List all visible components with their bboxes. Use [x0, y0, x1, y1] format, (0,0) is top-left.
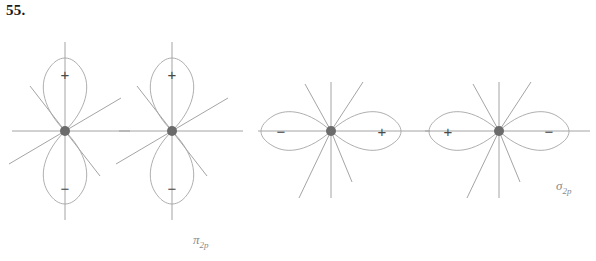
pi-atom-1-nucleus-icon — [60, 126, 70, 136]
sign-sigma-1-left: − — [277, 124, 286, 139]
pi-atom-2 — [116, 42, 243, 220]
axis-diagonal-up-left-icon — [30, 86, 65, 131]
axis-diagonal-down-right-icon — [499, 131, 520, 182]
sign-pi-2-top: + — [168, 67, 177, 82]
orbital-diagram-figure — [0, 0, 596, 261]
sigma-2p-orbital-group — [258, 82, 590, 198]
sigma-atom-2-nucleus-icon — [494, 126, 504, 136]
axis-diagonal-up-right-icon — [331, 82, 363, 131]
sign-sigma-2-right: − — [545, 124, 554, 139]
axis-diagonal-down-right-icon — [331, 131, 352, 182]
sigma-orbital-subscript: 2p — [562, 186, 571, 196]
sign-pi-2-bottom: − — [168, 181, 177, 196]
sigma-atom-1 — [258, 82, 430, 198]
axis-diagonal-down-right-icon — [172, 131, 207, 176]
axis-diagonal-up-right-icon — [65, 98, 121, 131]
axis-diagonal-down-left-icon — [299, 131, 331, 198]
axis-diagonal-up-left-icon — [137, 86, 172, 131]
sigma-orbital-label: σ2p — [556, 178, 571, 196]
axis-diagonal-down-left-icon — [9, 131, 65, 164]
sign-sigma-1-right: + — [378, 124, 387, 139]
pi-2p-orbital-group — [9, 42, 243, 220]
sign-pi-1-top: + — [61, 67, 70, 82]
pi-orbital-subscript: 2p — [200, 240, 209, 250]
axis-diagonal-down-left-icon — [467, 131, 499, 198]
sigma-atom-1-nucleus-icon — [326, 126, 336, 136]
sigma-atom-1-axes — [258, 82, 430, 198]
sign-sigma-2-left: + — [444, 124, 453, 139]
axis-diagonal-up-left-icon — [473, 84, 499, 131]
axis-diagonal-up-left-icon — [305, 84, 331, 131]
pi-atom-2-nucleus-icon — [167, 126, 177, 136]
axis-diagonal-up-right-icon — [172, 98, 228, 131]
axis-diagonal-down-left-icon — [116, 131, 172, 164]
pi-atom-2-axes — [116, 42, 243, 220]
pi-orbital-label: π2p — [193, 232, 209, 250]
sign-pi-1-bottom: − — [61, 181, 70, 196]
axis-diagonal-down-right-icon — [65, 131, 100, 176]
axis-diagonal-up-right-icon — [499, 82, 531, 131]
